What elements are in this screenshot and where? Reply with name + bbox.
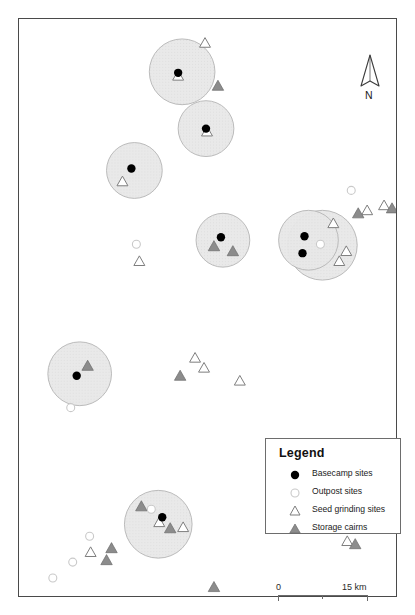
storage-cairn-marker <box>101 555 112 565</box>
legend-item-label: Outpost sites <box>312 486 362 496</box>
seed-grinding-site-marker <box>200 38 211 48</box>
outpost-site-marker <box>132 240 140 248</box>
basecamp-site-marker <box>217 233 225 241</box>
seed-grinding-site-marker <box>85 547 96 557</box>
seed-grinding-site-marker <box>379 200 390 210</box>
seed-grinding-site-marker <box>134 256 145 266</box>
storage-cairn-marker <box>212 80 223 90</box>
outpost-site-marker <box>49 574 57 582</box>
outpost-site-marker <box>69 558 77 566</box>
basecamp-site-marker <box>174 69 182 77</box>
basecamp-site-marker <box>298 249 306 257</box>
basecamp-dot-icon <box>286 467 304 482</box>
seed-grinding-site-marker <box>362 205 373 215</box>
legend-item-label: Seed grinding sites <box>312 504 385 514</box>
scale-bar-min-label: 0 <box>276 582 281 592</box>
legend-item-label: Basecamp sites <box>312 468 373 478</box>
seed-grinding-site-marker <box>190 353 201 363</box>
scale-bar-right-cap <box>367 595 368 601</box>
legend-title: Legend <box>279 446 325 460</box>
site-buffer <box>279 210 339 270</box>
north-arrow-icon: N <box>356 53 384 97</box>
outpost-site-marker <box>86 532 94 540</box>
north-arrow-label: N <box>365 89 373 101</box>
legend-item-label: Storage cairns <box>312 522 367 532</box>
basecamp-site-marker <box>73 372 81 380</box>
map-legend: Legend Basecamp sitesOutpost sitesSeed g… <box>265 438 401 534</box>
seed-triangle-icon <box>286 503 304 518</box>
scale-bar-left-cap <box>278 595 279 601</box>
basecamp-site-marker <box>158 513 166 521</box>
basecamp-site-marker <box>127 164 135 172</box>
storage-cairn-marker <box>174 370 185 380</box>
map-frame: Legend Basecamp sitesOutpost sitesSeed g… <box>18 18 397 597</box>
basecamp-site-marker <box>202 124 210 132</box>
legend-item-basecamp-dot: Basecamp sites <box>266 467 400 483</box>
seed-grinding-site-marker <box>199 362 210 372</box>
outpost-site-marker <box>147 505 155 513</box>
scale-bar-mid-tick <box>322 595 323 599</box>
storage-cairn-marker <box>106 543 117 553</box>
legend-item-outpost-circle: Outpost sites <box>266 485 400 501</box>
seed-grinding-site-marker <box>342 536 353 546</box>
outpost-site-marker <box>67 404 75 412</box>
seed-grinding-site-marker <box>234 375 245 385</box>
basecamp-site-marker <box>300 232 308 240</box>
outpost-circle-icon <box>286 485 304 500</box>
outpost-site-marker <box>316 240 324 248</box>
storage-cairn-marker <box>208 581 219 591</box>
outpost-site-marker <box>347 186 355 194</box>
scale-bar-max-label: 15 km <box>342 582 367 592</box>
legend-item-seed-triangle: Seed grinding sites <box>266 503 400 519</box>
legend-item-cairn-triangle: Storage cairns <box>266 521 400 537</box>
cairn-triangle-icon <box>286 521 304 536</box>
